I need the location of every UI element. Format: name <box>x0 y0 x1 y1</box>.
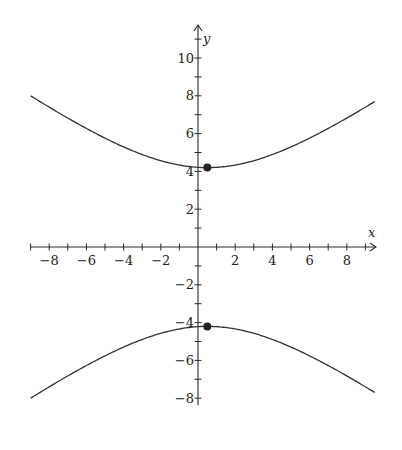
y-tick-label: 10 <box>177 51 194 66</box>
y-tick-label: −6 <box>175 353 194 368</box>
lower-branch-curve <box>31 326 375 398</box>
upper-vertex-dot <box>203 164 211 172</box>
upper-branch-curve <box>31 96 375 168</box>
x-tick-label: 6 <box>305 253 313 268</box>
x-tick-label: 8 <box>343 253 351 268</box>
y-axis-label: y <box>202 31 211 46</box>
y-tick-label: −2 <box>175 277 194 292</box>
x-tick-label: 4 <box>268 253 276 268</box>
axes <box>30 25 376 405</box>
lower-vertex-dot <box>203 322 211 330</box>
x-tick-label: −8 <box>40 253 59 268</box>
x-tick-label: −2 <box>151 253 170 268</box>
x-tick-label: 2 <box>231 253 239 268</box>
y-tick-label: 2 <box>186 202 194 217</box>
y-tick-label: 8 <box>186 88 194 103</box>
y-tick-label: 6 <box>186 126 194 141</box>
hyperbola-chart: −8−6−4−22468108642−2−4−6−8 x y <box>0 0 402 450</box>
y-tick-label: −8 <box>175 391 194 406</box>
x-axis-label: x <box>368 225 376 240</box>
x-tick-label: −6 <box>77 253 96 268</box>
x-tick-label: −4 <box>114 253 133 268</box>
